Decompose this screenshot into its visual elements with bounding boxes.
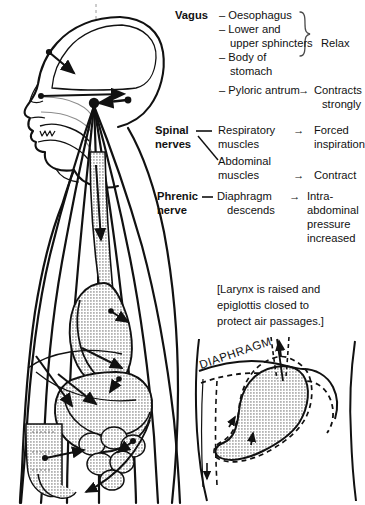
cortex-origin-dot <box>46 49 52 55</box>
diaphragm-descends-l2: descends <box>227 204 275 217</box>
vestibular-origin-dot <box>38 93 44 99</box>
dash-glyph: – <box>219 84 225 96</box>
inset-wall-solid-vertical <box>202 379 204 487</box>
contract-effect-label: Contract <box>314 169 356 182</box>
vagus-item-oesophagus: – Oesophagus <box>219 9 292 22</box>
contracts-effect-l1: Contracts <box>314 84 362 97</box>
intra-abdominal-l4: increased <box>307 232 356 245</box>
vagus-label: Vagus <box>175 9 208 22</box>
skull-back-outline <box>118 17 164 127</box>
vagus-item-stomach-text1: Body of <box>228 51 266 63</box>
diaphragm-inset: DIAPHRAGM <box>193 335 363 505</box>
duodenum-arrow-dot <box>42 455 48 461</box>
spinal-nerves-label-l2: nerves <box>155 138 191 151</box>
antrum-arrow-glyph: → <box>298 84 309 97</box>
inset-wall-dashed-vertical <box>216 381 218 485</box>
intra-abdominal-l2: abdominal <box>307 204 359 217</box>
vagus-item-antrum: – Pyloric antrum <box>219 84 300 97</box>
diaphragm-descends-l1: Diaphragm <box>217 190 272 203</box>
ctz-origin-dot <box>125 97 132 104</box>
intestine-arrow-dot <box>130 438 136 444</box>
dash-glyph: – <box>219 51 225 63</box>
phrenic-nerve-label-l1: Phrenic <box>157 190 198 203</box>
vagus-item-antrum-text: Pyloric antrum <box>228 84 300 96</box>
vagus-item-stomach-l2: stomach <box>230 65 272 78</box>
abdominal-muscles-l1: Abdominal <box>218 155 271 168</box>
vagus-item-sphincters-l2: upper sphincters <box>230 37 313 50</box>
antrum-arrow-origin-dot <box>116 376 122 382</box>
vagus-item-sphincters-text1: Lower and <box>228 23 280 35</box>
phrenic-nerve-label-l2: nerve <box>157 204 187 217</box>
contracts-effect-l2: strongly <box>322 98 361 111</box>
inset-upward-arrow-inner <box>229 417 235 427</box>
intra-abdominal-l1: Intra- <box>307 190 333 203</box>
intra-abdominal-l3: pressure <box>307 218 351 231</box>
relax-effect-label: Relax <box>321 37 350 50</box>
inset-right-body-wall <box>350 341 356 501</box>
abdominal-arrow-glyph: → <box>293 169 304 182</box>
dash-glyph: – <box>219 9 225 21</box>
larynx-note-l2: epiglottis closed to <box>217 298 309 313</box>
respiratory-arrow-glyph: → <box>293 124 304 137</box>
vagus-item-oesophagus-text: Oesophagus <box>228 9 291 21</box>
stomach-arrow-origin-dot <box>108 308 114 314</box>
abdominal-muscles-l2: muscles <box>218 169 259 182</box>
forced-inspiration-l1: Forced <box>314 124 349 137</box>
dash-glyph: – <box>219 23 225 35</box>
respiratory-muscles-l1: Respiratory <box>218 124 275 137</box>
respiratory-muscles-l2: muscles <box>218 138 259 151</box>
forced-inspiration-l2: inspiration <box>314 138 365 151</box>
diaphragm-inset-label: DIAPHRAGM <box>197 335 273 371</box>
inset-stomach-body <box>216 366 308 460</box>
spinal-nerves-label-l1: Spinal <box>155 124 189 137</box>
larynx-note-l1: [Larynx is raised and <box>217 282 320 297</box>
vagus-item-stomach-l1: – Body of <box>219 51 266 64</box>
phrenic-arrow-glyph: → <box>289 190 300 203</box>
vagus-item-sphincters-l1: – Lower and <box>219 23 281 36</box>
larynx-note-l3: protect air passages.] <box>217 314 324 329</box>
